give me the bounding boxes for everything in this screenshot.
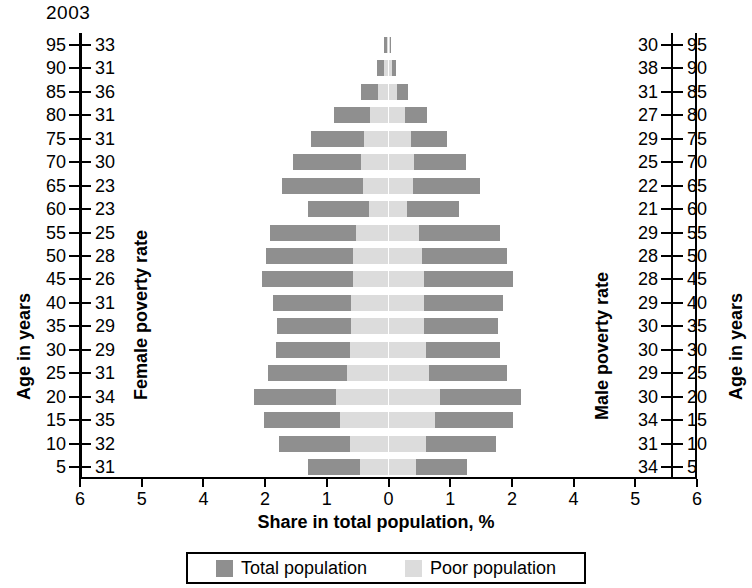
bar-segment-female-poor [350,342,388,358]
x-axis-tick-label: 4 [188,489,218,510]
y-axis-tick [69,302,91,304]
bar-segment-female-poor [363,178,389,194]
bar-segment-male-poor [389,412,436,428]
right-age-label: 50 [687,247,721,265]
x-axis-tick [264,479,266,487]
y-axis-tick [69,67,91,69]
x-axis-tick-label: 5 [127,489,157,510]
bar-segment-female-total [273,295,352,311]
y-axis-tick [661,255,683,257]
right-age-label: 90 [687,59,721,77]
y-axis-tick [69,443,91,445]
bar-segment-male-total [407,201,459,217]
bar-segment-female-total [279,436,351,452]
bar-segment-female-poor [347,365,389,381]
bar-segment-female-poor [370,107,389,123]
bar-row [80,436,697,452]
female-poverty-rate-value: 28 [95,247,129,265]
left-age-label: 55 [32,224,66,242]
left-age-labels: 9590858075706560555045403530252015105 [28,33,66,479]
female-poverty-rate-value: 31 [95,458,129,476]
bar-segment-female-poor [360,459,388,475]
male-poverty-rate-value: 29 [624,294,658,312]
bar-segment-male-poor [389,459,417,475]
left-age-label: 65 [32,177,66,195]
y-axis-tick [661,114,683,116]
right-age-label: 35 [687,317,721,335]
right-age-label: 25 [687,364,721,382]
bar-row [80,201,697,217]
bar-segment-male-total [419,225,499,241]
legend: Total population Poor population [186,552,586,584]
x-axis-tick-label: 5 [620,489,650,510]
male-poverty-rate-value: 22 [624,177,658,195]
female-poverty-rate-value: 33 [95,36,129,54]
y-axis-tick [661,67,683,69]
legend-item-poor: Poor population [405,558,556,579]
y-axis-tick [69,372,91,374]
left-age-label: 60 [32,200,66,218]
bar-segment-male-total [390,37,391,53]
left-age-label: 70 [32,153,66,171]
x-axis-tick [634,479,636,487]
x-axis-tick-label: 6 [682,489,712,510]
bar-segment-male-total [416,459,467,475]
y-axis-tick [69,161,91,163]
y-axis-tick [69,91,91,93]
male-poverty-rate-value: 31 [624,83,658,101]
male-poverty-rate-value: 29 [624,130,658,148]
bar-segment-female-total [262,271,353,287]
male-poverty-rate-value: 38 [624,59,658,77]
female-poverty-rate-value: 29 [95,317,129,335]
y-axis-tick [661,278,683,280]
y-axis-tick [69,44,91,46]
left-age-label: 15 [32,411,66,429]
right-age-label: 5 [687,458,721,476]
bar-segment-female-total [308,201,368,217]
left-age-label: 10 [32,435,66,453]
female-poverty-rate-value: 23 [95,177,129,195]
bar-segment-male-total [392,60,396,76]
bar-segment-male-total [424,318,498,334]
x-axis-tick [573,479,575,487]
bar-segment-male-poor [389,342,426,358]
legend-item-total: Total population [216,558,367,579]
y-axis-tick [661,161,683,163]
right-age-label: 20 [687,388,721,406]
male-poverty-rate-value: 34 [624,411,658,429]
bar-segment-male-poor [389,295,425,311]
left-age-label: 80 [32,106,66,124]
bar-segment-female-total [334,107,370,123]
left-age-label: 50 [32,247,66,265]
female-poverty-rate-value: 35 [95,411,129,429]
x-axis-tick [449,479,451,487]
male-poverty-rate-value: 29 [624,364,658,382]
y-axis-tick [661,396,683,398]
axis-title-x: Share in total population, % [0,512,752,533]
male-poverty-rate-value: 29 [624,224,658,242]
y-axis-tick [69,325,91,327]
bar-segment-female-poor [336,389,388,405]
y-axis-tick [661,349,683,351]
y-axis-tick [69,114,91,116]
bar-segment-male-total [429,365,507,381]
bar-segment-male-total [405,107,427,123]
bar-segment-female-total [311,131,363,147]
bar-segment-female-poor [351,318,388,334]
bar-segment-male-total [435,412,512,428]
left-age-label: 90 [32,59,66,77]
bar-segment-female-total [282,178,362,194]
bar-segment-male-poor [389,365,430,381]
axis-title-female-rate: Female poverty rate [131,230,152,400]
bar-segment-male-poor [389,178,414,194]
bar-segment-female-poor [378,84,388,100]
female-poverty-rate-value: 30 [95,153,129,171]
population-pyramid-chart: 2003 95908580757065605550454035302520151… [0,0,752,588]
right-axis-tick-column [661,33,683,479]
bar-segment-female-poor [369,201,389,217]
bar-segment-female-poor [353,248,389,264]
bar-segment-female-total [268,365,346,381]
x-axis-tick-label: 0 [374,489,404,510]
y-axis-tick [661,138,683,140]
y-axis-tick [69,419,91,421]
